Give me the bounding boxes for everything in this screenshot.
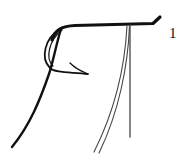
figure-label: 1 (169, 26, 177, 41)
double-curve-left (94, 26, 127, 152)
line-drawing (0, 0, 189, 167)
left-descending-stroke (12, 29, 61, 147)
hook-barb (70, 63, 86, 73)
top-bar-stroke (52, 17, 160, 40)
